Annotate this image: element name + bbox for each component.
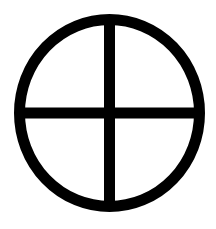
canvas: Circle with cross (sun cross / earth sym…: [0, 0, 216, 229]
sun-cross-icon: [0, 0, 216, 229]
